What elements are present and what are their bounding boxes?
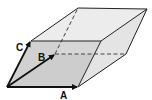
vector-b-label: B — [38, 52, 45, 63]
diagram-canvas: A B C — [0, 0, 152, 100]
vector-c-label: C — [16, 42, 23, 53]
parallelepiped-diagram: A B C — [0, 0, 152, 100]
vector-a-label: A — [60, 90, 67, 100]
